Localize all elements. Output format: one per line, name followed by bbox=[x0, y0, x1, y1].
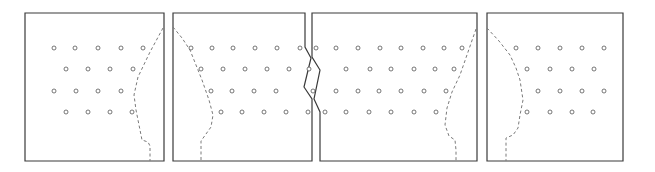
grid-dot bbox=[209, 89, 213, 93]
grid-dot bbox=[389, 110, 393, 114]
grid-dot bbox=[460, 46, 464, 50]
grid-dot bbox=[210, 46, 214, 50]
grid-dot bbox=[219, 110, 223, 114]
grid-dot bbox=[253, 46, 257, 50]
grid-dot bbox=[452, 67, 456, 71]
grid-dot bbox=[399, 46, 403, 50]
grid-dot bbox=[307, 67, 311, 71]
panel-outline bbox=[25, 13, 164, 161]
grid-dot bbox=[548, 110, 552, 114]
grid-dot bbox=[602, 89, 606, 93]
grid-dot bbox=[323, 110, 327, 114]
panel-outline bbox=[173, 13, 312, 161]
grid-dot bbox=[73, 46, 77, 50]
grid-dot bbox=[275, 46, 279, 50]
grid-dot bbox=[284, 110, 288, 114]
grid-dot bbox=[262, 110, 266, 114]
grid-dot bbox=[368, 67, 372, 71]
grid-dot bbox=[119, 89, 123, 93]
grid-dot bbox=[412, 67, 416, 71]
grid-dot bbox=[592, 67, 596, 71]
grid-dot bbox=[199, 67, 203, 71]
grid-dot bbox=[141, 46, 145, 50]
grid-dot bbox=[131, 67, 135, 71]
grid-dot bbox=[442, 46, 446, 50]
grid-dot bbox=[265, 67, 269, 71]
grid-dot bbox=[433, 67, 437, 71]
grid-dot bbox=[231, 46, 235, 50]
grid-dot bbox=[119, 46, 123, 50]
grid-dot bbox=[314, 46, 318, 50]
panel-2 bbox=[173, 13, 312, 161]
grid-dot bbox=[548, 67, 552, 71]
grid-dot bbox=[221, 67, 225, 71]
grid-dot bbox=[108, 67, 112, 71]
grid-dot bbox=[525, 67, 529, 71]
grid-dot bbox=[108, 110, 112, 114]
grid-dot bbox=[434, 110, 438, 114]
panel-4 bbox=[487, 13, 623, 161]
grid-dot bbox=[74, 89, 78, 93]
grid-dot bbox=[602, 46, 606, 50]
grid-dot bbox=[96, 89, 100, 93]
grid-dot bbox=[367, 110, 371, 114]
grid-dot bbox=[558, 46, 562, 50]
grid-dot bbox=[344, 67, 348, 71]
grid-dot bbox=[243, 67, 247, 71]
panel-outline bbox=[312, 13, 477, 161]
grid-dot bbox=[580, 89, 584, 93]
grid-dot bbox=[287, 67, 291, 71]
grid-dot bbox=[377, 89, 381, 93]
grid-dot bbox=[389, 67, 393, 71]
grid-dot bbox=[536, 89, 540, 93]
grid-dot bbox=[421, 46, 425, 50]
grid-dot bbox=[64, 67, 68, 71]
diagram-stage bbox=[0, 0, 655, 172]
panel-1 bbox=[25, 13, 164, 161]
grid-dot bbox=[356, 89, 360, 93]
grid-dot bbox=[130, 110, 134, 114]
panel-outline bbox=[487, 13, 623, 161]
panel-3 bbox=[311, 13, 477, 161]
grid-dot bbox=[344, 110, 348, 114]
grid-dot bbox=[570, 110, 574, 114]
grid-dot bbox=[52, 89, 56, 93]
grid-dot bbox=[306, 110, 310, 114]
dashed-boundary-curve bbox=[134, 28, 163, 161]
grid-dot bbox=[96, 46, 100, 50]
grid-dot bbox=[356, 46, 360, 50]
grid-dot bbox=[240, 110, 244, 114]
grid-dot bbox=[378, 46, 382, 50]
grid-dot bbox=[230, 89, 234, 93]
grid-dot bbox=[412, 110, 416, 114]
grid-dot bbox=[298, 46, 302, 50]
grid-dot bbox=[536, 46, 540, 50]
grid-dot bbox=[399, 89, 403, 93]
grid-dot bbox=[86, 110, 90, 114]
grid-dot bbox=[274, 89, 278, 93]
grid-dot bbox=[334, 89, 338, 93]
dot-grid-diagram bbox=[0, 0, 655, 172]
grid-dot bbox=[86, 67, 90, 71]
grid-dot bbox=[514, 46, 518, 50]
grid-dot bbox=[52, 46, 56, 50]
grid-dot bbox=[525, 110, 529, 114]
grid-dot bbox=[64, 110, 68, 114]
grid-dot bbox=[311, 89, 315, 93]
grid-dot bbox=[189, 46, 193, 50]
grid-dot bbox=[570, 67, 574, 71]
grid-dot bbox=[422, 89, 426, 93]
grid-dot bbox=[334, 46, 338, 50]
grid-dot bbox=[580, 46, 584, 50]
grid-dot bbox=[591, 110, 595, 114]
grid-dot bbox=[444, 89, 448, 93]
grid-dot bbox=[558, 89, 562, 93]
grid-dot bbox=[252, 89, 256, 93]
